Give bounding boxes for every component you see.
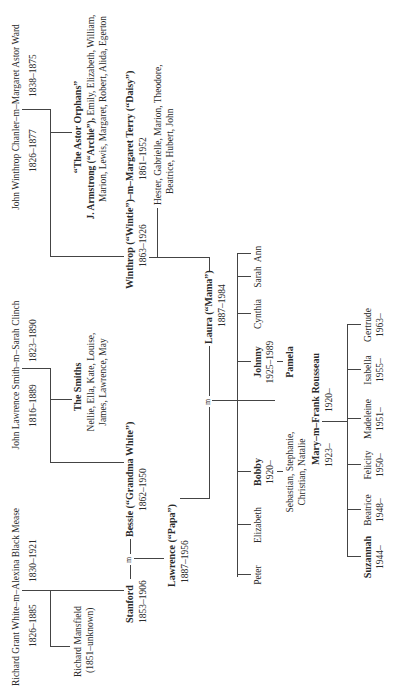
child-sarah: Sarah [252,266,264,288]
grandchild-madeleine: Madeleine [362,399,374,439]
mary-dates: 1923– [323,443,335,467]
chandler-descent-line [22,109,50,110]
smith-couple: John Lawrence Smith–m–Sarah Clinch [10,300,22,449]
smiths-line2: James, Lawrence, May [97,338,109,426]
lawrence-joint-line [180,498,210,499]
grandchild-suzannah-dates: 1944– [374,545,386,569]
grandchild-madeleine-dates: 1951– [374,407,386,431]
johnny-spouse: Pamela [284,346,296,378]
lawrence-descent-line [134,558,164,559]
grandchild-gertrude-dates: 1963– [374,313,386,337]
orphans-rest: Emily, Elizabeth, William, [86,15,96,118]
grandchild-beatrice: Beatrice [362,494,374,526]
smith-dates-left: 1816–1889 [27,384,39,427]
bobby-children-line1: Sebastian, Stephanie, [284,432,296,513]
bessie-dates: 1862–1950 [137,468,149,511]
parents-marriage-line-b [209,346,210,396]
child-cynthia: Cynthia [252,299,264,329]
white-children-bar [50,590,51,647]
white-dates-left: 1826–1885 [27,604,39,647]
mansfield-dates: (1851–unknown) [84,608,96,673]
gc-tick-gertrude [347,324,361,325]
grandchild-gertrude: Gertrude [362,308,374,342]
winthrop-couple: Winthrop (“Wintie”)–m–Margaret Terry (“D… [124,71,136,289]
winthrop-dates-left: 1863–1926 [137,224,149,267]
child-tick-johnny [237,361,251,362]
child-tick-ann [237,253,251,254]
child-peter: Peter [252,565,264,585]
bessie-name: Bessie (“Grandma White”) [124,422,136,537]
frank-dates: 1920– [323,388,335,412]
mansfield-line [50,646,70,647]
child-tick-sarah [237,276,251,277]
white-dates-right: 1830–1921 [27,539,39,582]
gc-tick-beatrice [347,509,361,510]
orphans-title: “The Astor Orphans” [72,81,84,174]
grandchild-isabella-dates: 1955– [374,358,386,382]
orphans-line1: J. Armstrong (“Archie”), Emily, Elizabet… [85,15,97,220]
winthrop-children-line1: Hester, Gabrielle, Marion, Theodore, [152,64,164,205]
winthrop-line [50,256,124,257]
smiths-title: The Smiths [72,363,84,412]
smiths-line1: Nellie, Ella, Kate, Louise, [85,333,97,432]
laura-dates: 1887–1984 [216,284,228,327]
bessie-line [50,462,124,463]
chandler-dates-left: 1826–1877 [27,129,39,172]
child-tick-peter [237,574,251,575]
child-johnny-dates: 1925–1989 [264,341,276,384]
archie-name: J. Armstrong (“Archie”), [86,118,96,220]
gc-tick-isabella [347,369,361,370]
winthrop-dates-right: 1861–1952 [137,137,149,180]
child-elizabeth: Elizabeth [252,507,264,543]
grandchild-isabella: Isabella [362,355,374,385]
lawrence-name: Lawrence (“Papa”) [166,504,178,587]
smiths-line [50,399,72,400]
winthrop-children-line [157,208,158,258]
lawrence-dates: 1887–1956 [179,540,191,583]
child-ann: Ann [252,246,264,262]
laura-descent-line [149,257,209,258]
laura-name: Laura (“Mama”) [203,270,215,344]
child-bobby-dates: 1920– [264,460,276,484]
mansfield-name: Richard Mansfield [72,606,84,677]
child-tick-cynthia [237,313,251,314]
laura-connector [209,257,210,271]
orphans-line2: Marion, Lewis, Margaret, Robert, Alida, … [97,16,109,202]
stanford-name: Stanford [124,585,136,623]
stanford-dates: 1853–1906 [137,580,149,623]
children-bar [237,254,238,577]
white-couple: Richard Grant White–m–Alexina Black Meas… [10,508,22,686]
grandchild-felicity-dates: 1950– [374,453,386,477]
child-tick-bobby [237,471,251,472]
white-descent-line [22,590,50,591]
grandchild-suzannah: Suzannah [362,536,374,578]
stanford-line [50,590,124,591]
family-tree-diagram: Richard Grant White–m–Alexina Black Meas… [0,0,396,687]
orphans-line [50,132,72,133]
grandchild-beatrice-dates: 1948– [374,498,386,522]
mary-descent-line [322,421,348,422]
parents-marriage-line-a [209,407,210,499]
bobby-children-line2: Christian, Natalie [296,438,308,505]
gc-tick-suzannah [347,556,361,557]
stanford-marriage-line-b [130,539,131,554]
chandler-couple: John Winthrop Chanler–m–Margaret Astor W… [10,24,22,210]
mary-couple: Mary–m–Frank Rousseau [310,353,322,465]
grandchild-felicity: Felicity [362,450,374,479]
smith-dates-right: 1823–1890 [27,319,39,362]
johnny-spouse-tick [277,361,283,362]
gc-tick-felicity [347,464,361,465]
winthrop-children-line2: Beatrice, Hubert, John [164,109,176,194]
child-johnny: Johnny [252,346,264,378]
smith-descent-line [22,368,50,369]
children-descent-line [212,400,275,401]
smith-children-bar [50,368,51,463]
child-bobby: Bobby [252,458,264,486]
stanford-marriage-line-a [130,565,131,579]
chandler-dates-right: 1838–1875 [27,54,39,97]
gc-tick-madeleine [347,418,361,419]
grandchildren-bar [347,325,348,557]
bobby-children-tick [277,471,283,472]
child-tick-elizabeth [237,524,251,525]
